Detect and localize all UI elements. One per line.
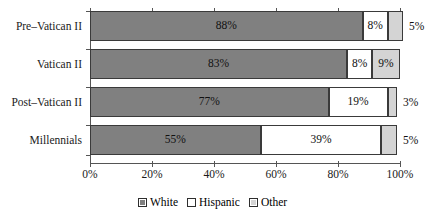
bar-value-label: 39% bbox=[310, 134, 331, 146]
legend-label: White bbox=[150, 196, 178, 208]
x-tick-label: 40% bbox=[203, 168, 224, 180]
legend-item: Hispanic bbox=[187, 196, 240, 208]
bar-segment-other: 9% bbox=[372, 49, 400, 79]
bar-row: 77%19%3% bbox=[0, 87, 425, 117]
x-tick-label: 80% bbox=[327, 168, 348, 180]
bar-row: 88%8%5% bbox=[0, 11, 425, 41]
bar-segment-hispanic: 19% bbox=[329, 87, 388, 117]
bar-value-label-outside: 5% bbox=[409, 11, 424, 41]
bar-segment-hispanic: 39% bbox=[261, 125, 382, 155]
bar-segment-other bbox=[388, 87, 397, 117]
legend-label: Hispanic bbox=[199, 196, 240, 208]
legend-item: White bbox=[138, 196, 178, 208]
axis-tick-mark bbox=[400, 161, 401, 167]
bar-segment-hispanic: 8% bbox=[347, 49, 372, 79]
bar-segment-other bbox=[381, 125, 397, 155]
bar-segment-hispanic: 8% bbox=[363, 11, 388, 41]
bar-value-label: 19% bbox=[348, 96, 369, 108]
bar-value-label: 55% bbox=[165, 134, 186, 146]
bar-segment-white: 83% bbox=[90, 49, 347, 79]
bar-value-label: 88% bbox=[216, 20, 237, 32]
legend-swatch-icon bbox=[187, 198, 196, 207]
x-axis-tick-labels: 0%20%40%60%80%100% bbox=[0, 168, 425, 184]
bar-segment-white: 55% bbox=[90, 125, 261, 155]
bar-value-label: 8% bbox=[352, 58, 367, 70]
legend-swatch-icon bbox=[138, 198, 147, 207]
chart-legend: WhiteHispanicOther bbox=[0, 196, 425, 208]
legend-swatch-icon bbox=[249, 198, 258, 207]
x-tick-label: 100% bbox=[387, 168, 414, 180]
x-axis-line bbox=[90, 163, 401, 164]
bar-segment-white: 88% bbox=[90, 11, 363, 41]
bar-row: 83%8%9% bbox=[0, 49, 425, 79]
bar-row: 55%39%5% bbox=[0, 125, 425, 155]
legend-swatch-fill bbox=[250, 199, 257, 206]
x-tick-label: 60% bbox=[265, 168, 286, 180]
bar-value-label: 9% bbox=[378, 58, 393, 70]
stacked-bar-chart: Pre–Vatican IIVatican IIPost–Vatican IIM… bbox=[0, 0, 425, 223]
axis-tick-mark bbox=[276, 161, 277, 167]
bar-segment-white: 77% bbox=[90, 87, 329, 117]
legend-swatch-fill bbox=[188, 199, 195, 206]
bar-value-label: 83% bbox=[208, 58, 229, 70]
axis-tick-mark bbox=[214, 161, 215, 167]
bar-value-label-outside: 5% bbox=[403, 125, 418, 155]
axis-tick-mark bbox=[152, 161, 153, 167]
bar-value-label: 77% bbox=[199, 96, 220, 108]
x-tick-label: 0% bbox=[82, 168, 97, 180]
bar-value-label-outside: 3% bbox=[403, 87, 418, 117]
bar-value-label: 8% bbox=[368, 20, 383, 32]
axis-tick-mark bbox=[90, 161, 91, 167]
legend-label: Other bbox=[261, 196, 287, 208]
legend-item: Other bbox=[249, 196, 287, 208]
legend-swatch-fill bbox=[139, 199, 146, 206]
axis-tick-mark bbox=[338, 161, 339, 167]
x-tick-label: 20% bbox=[141, 168, 162, 180]
bar-segment-other bbox=[388, 11, 404, 41]
category-tick-mark bbox=[86, 155, 91, 156]
